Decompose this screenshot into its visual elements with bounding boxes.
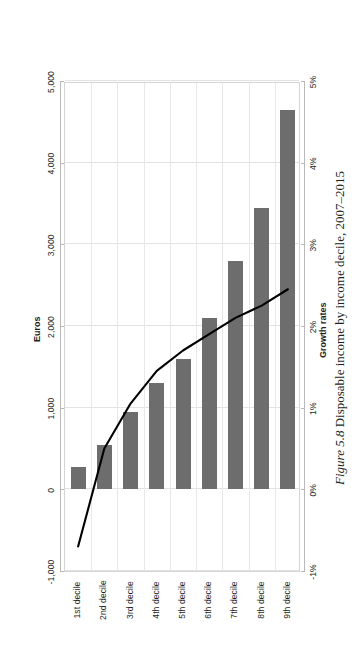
category-label: 5th decile [177,581,187,618]
growth-tick-label: 3% [308,239,318,252]
category-label: 6th decile [203,581,213,618]
growth-tick-label: 1% [308,402,318,415]
category-label: 4th decile [150,581,160,618]
category-label: 7th decile [229,581,239,618]
growth-axis-line [304,82,305,572]
rotated-figure-container: Euros -1,00001,0002,0003,0004,0005,000 G… [30,28,330,628]
growth-tick-label: 2% [308,321,318,334]
euros-tick-label: 4,000 [46,153,56,175]
growth-tick-label: 5% [308,76,318,89]
euros-tick-label: 1,000 [46,398,56,420]
figure-page: Euros -1,00001,0002,0003,0004,0005,000 G… [0,0,359,656]
growth-rate-polyline [78,289,288,546]
growth-tick-label: 4% [308,157,318,170]
euros-tick-label: 0 [46,488,56,493]
figure-caption: Figure 5.8 Disposable income by income d… [325,0,355,656]
growth-rate-line-series [65,81,301,571]
category-label: 3rd decile [124,581,134,619]
chart: Euros -1,00001,0002,0003,0004,0005,000 G… [30,28,330,628]
plot-area [64,82,300,572]
category-label: 8th decile [255,581,265,618]
euros-tick-label: -1,000 [46,560,56,585]
growth-tick-label: -1% [308,564,318,579]
figure-caption-label: Figure 5.8 [332,431,347,485]
euros-tick-label: 3,000 [46,234,56,256]
category-label: 1st decile [72,582,82,619]
euros-axis-title: Euros [32,316,42,342]
euros-tick-label: 5,000 [46,71,56,93]
category-label: 9th decile [281,581,291,618]
category-label: 2nd decile [98,580,108,620]
growth-tick-label: 0% [308,484,318,497]
euros-axis-line [60,82,61,572]
euros-tick-label: 2,000 [46,316,56,338]
figure-caption-body: Disposable income by income decile, 2007… [332,171,347,427]
figure-caption-text: Figure 5.8 Disposable income by income d… [332,171,348,485]
